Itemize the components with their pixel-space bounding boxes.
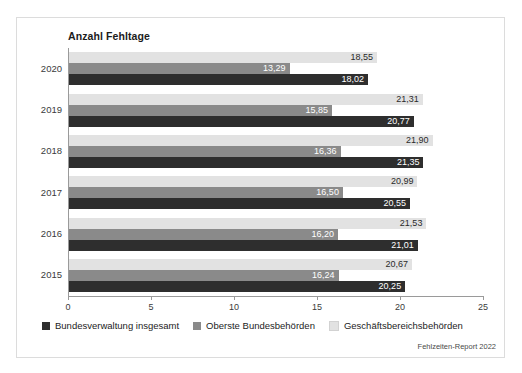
chart-legend: Bundesverwaltung insgesamtOberste Bundes… [42,320,463,331]
bar-value-label: 13,29 [69,63,286,74]
bar-value-label: 21,90 [69,135,429,146]
legend-label: Oberste Bundesbehörden [206,320,315,331]
y-axis-category-label: 2020 [30,63,62,74]
legend-item: Geschäftsbereichsbehörden [329,320,463,331]
x-axis-line [68,296,484,297]
x-axis-tick [151,296,152,300]
legend-swatch-icon [329,321,339,331]
y-axis-category-label: 2019 [30,104,62,115]
legend-label: Geschäftsbereichsbehörden [344,320,463,331]
chart-title: Anzahl Fehltage [68,30,150,42]
bar-value-label: 16,50 [69,187,339,198]
bar-value-label: 20,99 [69,176,413,187]
y-axis-category-label: 2018 [30,145,62,156]
chart-figure: Anzahl Fehltage 0510152025 2020201920182… [0,0,522,373]
bar-value-label: 20,77 [69,116,410,127]
bar-value-label: 21,35 [69,157,419,168]
bar-value-label: 21,53 [69,218,422,229]
bar-value-label: 16,20 [69,229,334,240]
bar-value-label: 18,02 [69,74,364,85]
bar-value-label: 20,67 [69,259,408,270]
bar-value-label: 21,01 [69,240,414,251]
x-axis-tick-label: 25 [478,302,488,312]
x-axis-tick-label: 5 [148,302,153,312]
legend-label: Bundesverwaltung insgesamt [55,320,179,331]
x-axis-tick [317,296,318,300]
bar-value-label: 20,25 [69,281,401,292]
x-axis-tick [68,296,69,300]
x-axis-tick [234,296,235,300]
x-axis-tick-label: 20 [395,302,405,312]
legend-swatch-icon [193,322,201,330]
x-axis-tick-label: 10 [229,302,239,312]
bar-value-label: 15,85 [69,105,328,116]
legend-swatch-icon [42,322,50,330]
bar-value-label: 16,24 [69,270,335,281]
source-note: Fehlzeiten-Report 2022 [418,342,496,351]
y-axis-category-label: 2015 [30,269,62,280]
y-axis-category-label: 2016 [30,228,62,239]
legend-item: Bundesverwaltung insgesamt [42,320,179,331]
x-axis-tick-label: 15 [312,302,322,312]
x-axis-tick [400,296,401,300]
bar-value-label: 20,55 [69,198,406,209]
legend-item: Oberste Bundesbehörden [193,320,315,331]
bar-value-label: 21,31 [69,94,419,105]
bar-value-label: 18,55 [69,52,373,63]
bar-value-label: 16,36 [69,146,337,157]
y-axis-category-label: 2017 [30,187,62,198]
x-axis-tick-label: 0 [65,302,70,312]
x-axis-tick [483,296,484,300]
